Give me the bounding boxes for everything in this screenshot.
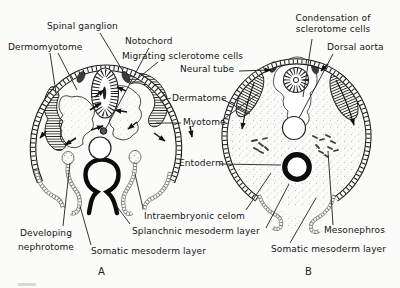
dorsal-aorta-b: [283, 117, 306, 140]
label-mesonephros: Mesonephros: [324, 225, 385, 236]
label-entoderm: Entoderm: [179, 158, 224, 169]
label-dermatome: Dermatome: [172, 93, 227, 104]
migration-arrow: [154, 133, 165, 141]
label-neural-tube: Neural tube: [180, 64, 234, 75]
nephrotome-knob-left: [62, 152, 74, 165]
label-splanchnic-mesoderm: Splanchnic mesoderm layer: [132, 226, 260, 237]
nephrotome-knob-right: [129, 151, 141, 164]
label-dermomyotome: Dermomyotome: [8, 42, 82, 53]
embryo-somite-diagram: Spinal ganglion Dermomyotome Notochord M…: [0, 0, 400, 288]
entoderm-ring: [282, 152, 313, 183]
label-dorsal-aorta: Dorsal aorta: [327, 42, 384, 53]
label-spinal-ganglion: Spinal ganglion: [47, 21, 118, 32]
panel-letter-b: B: [305, 267, 312, 277]
neural-tube-a: [92, 68, 119, 118]
scan-smudge: [18, 283, 36, 286]
notochord-a: [100, 128, 107, 135]
label-notochord: Notochord: [125, 36, 173, 47]
label-migrating-sclerotome: Migrating sclerotome cells: [122, 51, 243, 62]
dorsal-aorta-a: [89, 137, 111, 159]
label-intraembryonic-celom: Intraembryonic celom: [144, 211, 245, 222]
panel-letter-a: A: [98, 267, 105, 277]
gut-tube: [86, 160, 119, 214]
label-somatic-mesoderm-right: Somatic mesoderm layer: [271, 244, 386, 255]
sclerotome-blob-left: [59, 96, 95, 148]
label-developing-nephrotome: Developing nephrotome: [9, 227, 83, 254]
label-somatic-mesoderm-left: Somatic mesoderm layer: [91, 246, 206, 257]
label-myotome: Myotome: [183, 117, 226, 128]
migration-arrow: [190, 126, 192, 137]
leader-celom-a: [135, 174, 143, 208]
label-condensation: Condensation of sclerotome cells: [288, 13, 378, 34]
somatic-fold-right: [144, 172, 170, 210]
